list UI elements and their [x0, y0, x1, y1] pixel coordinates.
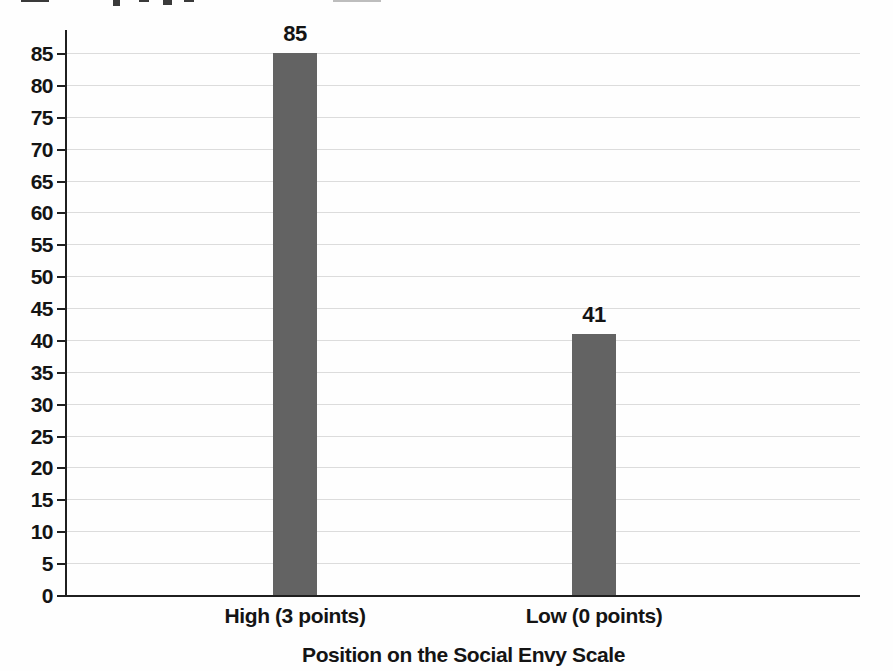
- y-tick-40: [57, 340, 65, 342]
- y-tick-70: [57, 149, 65, 151]
- y-tick-65: [57, 181, 65, 183]
- y-tick-85: [57, 53, 65, 55]
- gridline-y-20: [67, 467, 860, 468]
- y-tick-50: [57, 276, 65, 278]
- gridline-y-65: [67, 181, 860, 182]
- gridline-y-80: [67, 85, 860, 86]
- y-tick-label-55: 55: [11, 234, 53, 255]
- y-tick-label-50: 50: [11, 266, 53, 287]
- y-tick-15: [57, 499, 65, 501]
- gridline-y-55: [67, 244, 860, 245]
- y-tick-label-40: 40: [11, 330, 53, 351]
- gridline-y-75: [67, 117, 860, 118]
- gridline-y-70: [67, 149, 860, 150]
- y-tick-label-15: 15: [11, 489, 53, 510]
- y-tick-label-30: 30: [11, 394, 53, 415]
- y-tick-label-10: 10: [11, 521, 53, 542]
- y-tick-75: [57, 117, 65, 119]
- gridline-y-5: [67, 563, 860, 564]
- gridline-y-30: [67, 404, 860, 405]
- y-tick-label-85: 85: [11, 43, 53, 64]
- gridline-y-50: [67, 276, 860, 277]
- x-category-label-1: High (3 points): [185, 605, 405, 626]
- y-tick-label-0: 0: [11, 585, 53, 606]
- y-tick-label-60: 60: [11, 202, 53, 223]
- y-tick-label-80: 80: [11, 75, 53, 96]
- y-tick-0: [57, 595, 65, 597]
- y-tick-35: [57, 372, 65, 374]
- gridline-y-25: [67, 436, 860, 437]
- y-tick-80: [57, 85, 65, 87]
- y-tick-label-35: 35: [11, 362, 53, 383]
- bar-value-label-1: 85: [255, 23, 335, 45]
- y-tick-55: [57, 244, 65, 246]
- y-tick-label-45: 45: [11, 298, 53, 319]
- y-tick-label-25: 25: [11, 426, 53, 447]
- y-tick-30: [57, 404, 65, 406]
- y-tick-10: [57, 531, 65, 533]
- x-axis-line: [65, 595, 860, 597]
- bar-1: [273, 53, 317, 595]
- gridline-y-40: [67, 340, 860, 341]
- bar-2: [572, 334, 616, 595]
- y-tick-label-75: 75: [11, 107, 53, 128]
- gridline-y-85: [67, 53, 860, 54]
- gridline-y-45: [67, 308, 860, 309]
- y-tick-60: [57, 212, 65, 214]
- gridline-y-15: [67, 499, 860, 500]
- y-tick-45: [57, 308, 65, 310]
- y-tick-5: [57, 563, 65, 565]
- gridline-y-35: [67, 372, 860, 373]
- y-tick-label-5: 5: [11, 553, 53, 574]
- bar-chart: 051015202530354045505560657075808585High…: [0, 0, 893, 671]
- bar-value-label-2: 41: [554, 304, 634, 326]
- y-tick-label-70: 70: [11, 139, 53, 160]
- x-axis-title: Position on the Social Envy Scale: [67, 644, 860, 665]
- y-axis-line: [65, 30, 67, 597]
- y-tick-20: [57, 467, 65, 469]
- y-tick-label-65: 65: [11, 171, 53, 192]
- figure-page: 051015202530354045505560657075808585High…: [0, 0, 893, 671]
- y-tick-25: [57, 436, 65, 438]
- y-tick-label-20: 20: [11, 457, 53, 478]
- x-category-label-2: Low (0 points): [484, 605, 704, 626]
- gridline-y-60: [67, 212, 860, 213]
- gridline-y-10: [67, 531, 860, 532]
